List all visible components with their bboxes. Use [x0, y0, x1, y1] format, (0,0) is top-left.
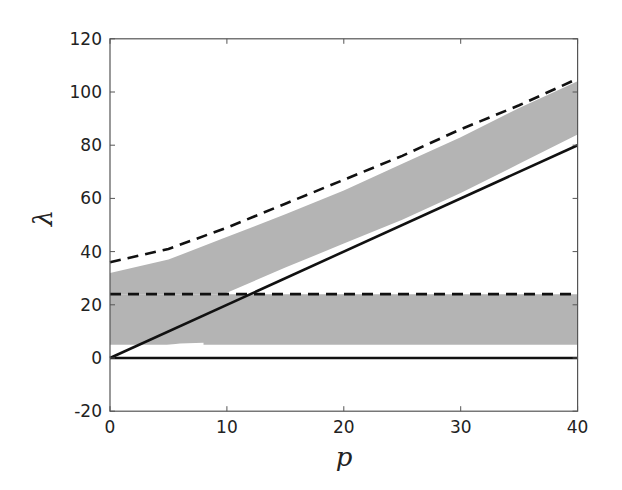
y-tick-label: 120 — [70, 29, 102, 49]
y-tick-label: 0 — [91, 348, 102, 368]
y-tick-label: 80 — [80, 135, 102, 155]
y-tick-label: -20 — [74, 401, 102, 421]
x-tick-label: 10 — [216, 417, 238, 437]
shaded-band-1 — [110, 81, 578, 294]
y-tick-label: 40 — [80, 242, 102, 262]
x-axis-label: p — [336, 442, 353, 472]
x-tick-label: 20 — [333, 417, 355, 437]
shaded-regions — [110, 81, 578, 344]
shaded-band-0 — [110, 294, 578, 345]
x-tick-label: 0 — [105, 417, 116, 437]
y-tick-label: 60 — [80, 188, 102, 208]
y-tick-label: 20 — [80, 295, 102, 315]
y-tick-label: 100 — [70, 82, 102, 102]
x-tick-label: 30 — [450, 417, 472, 437]
y-axis-label: λ — [28, 210, 58, 227]
x-tick-label: 40 — [567, 417, 589, 437]
chart: 010203040 -20020406080100120 p λ — [0, 0, 622, 490]
